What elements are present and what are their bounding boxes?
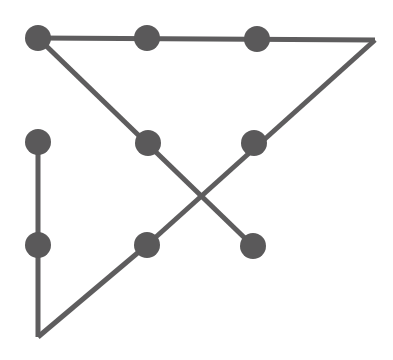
figure-canvas [0,0,393,360]
node-left-upper [25,129,51,155]
edge-layer [38,38,375,337]
node-center-upper [135,130,161,156]
node-right-lower [240,233,266,259]
node-center-lower [134,232,160,258]
node-link-diagram [0,0,393,360]
node-top-left [25,25,51,51]
node-top-middle [134,25,160,51]
node-top-right [244,26,270,52]
edge-bottom-diagonal [38,245,147,337]
edge-top-horizontal [38,38,375,40]
node-right-upper [241,130,267,156]
node-left-lower [25,232,51,258]
